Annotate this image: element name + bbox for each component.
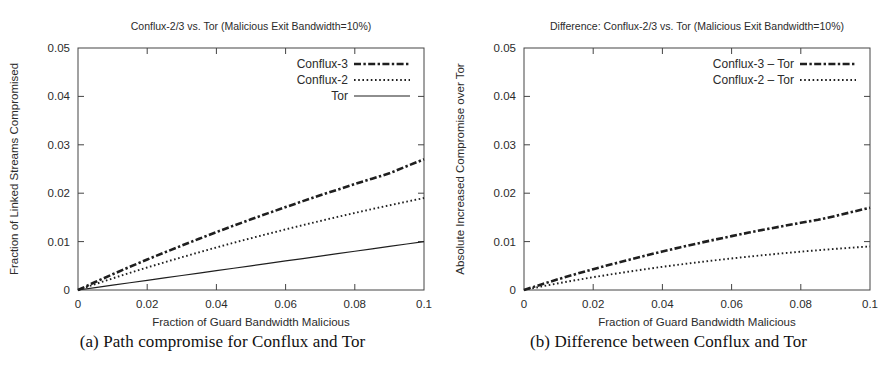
series-line [78,159,424,290]
chart-title: Difference: Conflux-2/3 vs. Tor (Malicio… [550,20,844,32]
chart-b-plot-area: Difference: Conflux-2/3 vs. Tor (Malicio… [446,8,891,326]
x-tick-label: 0.06 [720,298,742,310]
x-tick-label: 0.08 [344,298,366,310]
x-tick-label: 0.02 [582,298,604,310]
caption-b: (b) Difference between Conflux and Tor [446,332,891,352]
series-line [78,198,424,290]
x-tick-label: 0.06 [274,298,296,310]
chart-b-svg: Difference: Conflux-2/3 vs. Tor (Malicio… [446,8,891,326]
y-tick-label: 0.05 [48,42,70,54]
y-tick-label: 0.01 [494,236,516,248]
x-tick-label: 0.04 [651,298,674,310]
legend-label: Conflux-3 – Tor [713,57,794,71]
chart-title: Conflux-2/3 vs. Tor (Malicious Exit Band… [131,20,372,32]
y-tick-label: 0.04 [48,90,71,102]
chart-a-plot-area: Conflux-2/3 vs. Tor (Malicious Exit Band… [0,8,445,326]
chart-a-svg: Conflux-2/3 vs. Tor (Malicious Exit Band… [0,8,445,326]
y-tick-label: 0.03 [494,139,516,151]
legend-label: Tor [331,89,348,103]
y-tick-label: 0.01 [48,236,70,248]
x-tick-label: 0.1 [862,298,878,310]
x-tick-label: 0.08 [790,298,812,310]
series-line [524,246,870,290]
x-tick-label: 0 [521,298,527,310]
panel-a: Conflux-2/3 vs. Tor (Malicious Exit Band… [0,0,445,382]
caption-a: (a) Path compromise for Conflux and Tor [0,332,445,352]
x-tick-label: 0.02 [136,298,158,310]
y-tick-label: 0.02 [48,187,70,199]
x-tick-label: 0 [75,298,81,310]
legend-label: Conflux-3 [297,57,349,71]
y-axis-label: Absolute Increased Compromise over Tor [454,63,466,275]
x-tick-label: 0.1 [416,298,432,310]
x-tick-label: 0.04 [205,298,228,310]
x-axis-label: Fraction of Guard Bandwidth Malicious [152,316,350,326]
y-tick-label: 0.03 [48,139,70,151]
y-tick-label: 0.02 [494,187,516,199]
y-axis-label: Fraction of Linked Streams Compromised [8,63,20,275]
x-axis-label: Fraction of Guard Bandwidth Malicious [598,316,796,326]
panel-b: Difference: Conflux-2/3 vs. Tor (Malicio… [446,0,891,382]
y-tick-label: 0.05 [494,42,516,54]
plot-frame [524,48,870,290]
figure-container: Conflux-2/3 vs. Tor (Malicious Exit Band… [0,0,891,382]
plot-frame [78,48,424,290]
series-line [524,208,870,290]
legend-label: Conflux-2 [297,73,349,87]
legend-label: Conflux-2 – Tor [713,73,794,87]
y-tick-label: 0.04 [494,90,517,102]
y-tick-label: 0 [510,284,516,296]
y-tick-label: 0 [64,284,70,296]
